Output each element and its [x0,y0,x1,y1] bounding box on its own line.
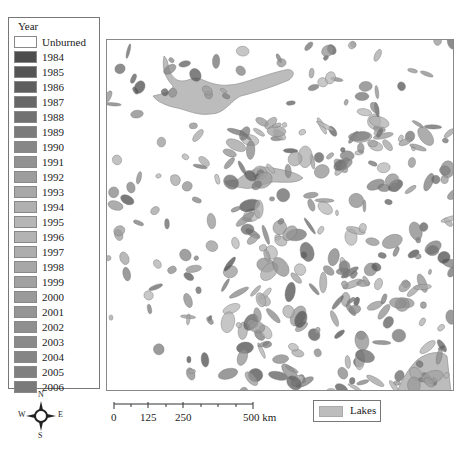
legend-label: 1990 [42,140,64,154]
legend-label: 1996 [42,230,64,244]
legend-swatch [14,186,37,198]
legend-swatch [14,306,37,318]
legend-label: 2006 [42,380,64,394]
legend-title: Year [18,20,38,32]
lakes-label: Lakes [350,404,376,416]
legend-swatch [14,231,37,243]
scale-tick-125: 125 [140,411,157,423]
legend-item: 1993 [14,186,100,200]
legend-swatch [14,66,37,78]
legend-swatch [14,36,37,48]
legend-label: 2000 [42,290,64,304]
legend-label: 1998 [42,260,64,274]
legend-label: 1987 [42,95,64,109]
legend-swatch [14,321,37,333]
legend-swatch [14,171,37,183]
legend-swatch [14,381,37,393]
legend-swatch [14,111,37,123]
legend-item: 1996 [14,231,100,245]
legend-item: 1987 [14,96,100,110]
legend-item: 1994 [14,201,100,215]
legend-label: 1993 [42,185,64,199]
legend-item: Unburned [14,36,100,50]
legend-item: 1999 [14,276,100,290]
legend-swatch [14,96,37,108]
legend-item: 2003 [14,336,100,350]
legend-item: 2001 [14,306,100,320]
legend-item: 1984 [14,51,100,65]
legend-item: 2000 [14,291,100,305]
lakes-legend: Lakes [313,400,381,422]
legend-label: 1988 [42,110,64,124]
scale-tick-0: 0 [111,411,117,423]
legend-swatch [14,366,37,378]
legend-item: 1991 [14,156,100,170]
legend-swatch [14,216,37,228]
scale-tick-250: 250 [175,411,192,423]
legend-item: 1986 [14,81,100,95]
legend-label: 1995 [42,215,64,229]
legend-swatch [14,291,37,303]
legend-item: 1995 [14,216,100,230]
legend-label: 2004 [42,350,64,364]
legend-item: 1992 [14,171,100,185]
year-legend: Year Unburned198419851986198719881989199… [8,17,100,389]
legend-label: 1997 [42,245,64,259]
legend-label: 2003 [42,335,64,349]
legend-label: Unburned [42,35,86,49]
lakes-swatch [319,406,343,417]
legend-label: 1999 [42,275,64,289]
scale-bar: 0 125 250 500 km [112,402,312,432]
legend-swatch [14,336,37,348]
legend-label: 1986 [42,80,64,94]
legend-swatch [14,351,37,363]
legend-label: 1989 [42,125,64,139]
legend-label: 1992 [42,170,64,184]
legend-swatch [14,246,37,258]
legend-swatch [14,141,37,153]
legend-swatch [14,126,37,138]
compass-n: N [38,390,44,399]
compass-rose: N S W E [18,393,64,439]
legend-item: 1988 [14,111,100,125]
legend-item: 1985 [14,66,100,80]
legend-label: 1991 [42,155,64,169]
legend-item: 2002 [14,321,100,335]
compass-w: W [18,410,26,419]
lakes [153,56,451,391]
legend-swatch [14,156,37,168]
legend-item: 2004 [14,351,100,365]
legend-label: 1984 [42,50,64,64]
legend-label: 2001 [42,305,64,319]
legend-swatch [14,51,37,63]
scale-tick-500: 500 km [243,411,276,423]
map-canvas [107,40,454,391]
burn-patches [107,40,454,391]
legend-item: 1989 [14,126,100,140]
legend-item: 1990 [14,141,100,155]
legend-item: 1997 [14,246,100,260]
legend-swatch [14,81,37,93]
legend-swatch [14,201,37,213]
compass-e: E [58,410,63,419]
legend-label: 2002 [42,320,64,334]
legend-label: 2005 [42,365,64,379]
legend-label: 1994 [42,200,64,214]
burn-map [106,39,454,391]
legend-item: 2005 [14,366,100,380]
legend-item: 1998 [14,261,100,275]
compass-s: S [38,431,42,440]
legend-swatch [14,276,37,288]
legend-label: 1985 [42,65,64,79]
legend-swatch [14,261,37,273]
